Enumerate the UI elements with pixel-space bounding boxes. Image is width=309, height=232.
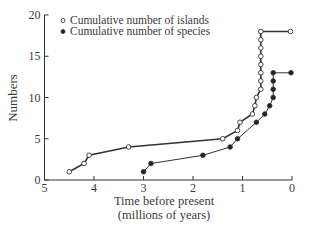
data-point [289, 70, 294, 75]
y-tick-label: 20 [29, 8, 41, 22]
legend-label: Cumulative number of species [70, 25, 211, 38]
plot-area [67, 29, 293, 174]
data-point [126, 145, 131, 150]
data-point [271, 79, 276, 84]
series-line [144, 73, 292, 172]
data-point [220, 136, 225, 141]
legend-marker-filled-circle-icon [61, 30, 65, 34]
x-tick-label: 5 [42, 181, 48, 195]
data-point [235, 136, 240, 141]
x-tick-label: 3 [141, 181, 147, 195]
y-tick-label: 15 [29, 49, 41, 63]
data-point [259, 79, 264, 84]
x-axis-label-line-1: Time before present [114, 194, 215, 208]
data-point [201, 153, 206, 158]
data-point [271, 95, 276, 100]
data-point [259, 70, 264, 75]
series-species [141, 70, 293, 174]
series-islands [67, 29, 293, 174]
data-point [149, 161, 154, 166]
data-point [254, 120, 259, 125]
x-tick-label: 1 [240, 181, 246, 195]
data-point [254, 95, 259, 100]
data-point [228, 145, 233, 150]
data-point [262, 112, 267, 117]
data-point [235, 128, 240, 133]
data-point [259, 29, 264, 34]
data-point [288, 29, 293, 34]
data-point [141, 169, 146, 174]
x-axis-label-line-2: (millions of years) [118, 208, 210, 222]
data-point [259, 87, 264, 92]
y-tick-label: 0 [35, 173, 41, 187]
data-point [271, 87, 276, 92]
data-point [271, 70, 276, 75]
data-point [259, 37, 264, 42]
x-tick-label: 0 [289, 181, 295, 195]
data-point [259, 46, 264, 51]
y-tick-label: 5 [35, 132, 41, 146]
data-point [67, 169, 72, 174]
data-point [87, 153, 92, 158]
data-point [253, 103, 258, 108]
y-tick-label: 10 [29, 91, 41, 105]
data-point [250, 112, 255, 117]
series-line [69, 32, 290, 172]
data-point [259, 62, 264, 67]
legend-marker-open-circle-icon [61, 19, 65, 23]
y-axis-label: Numbers [5, 74, 20, 122]
data-point [267, 103, 272, 108]
legend: Cumulative number of islandsCumulative n… [61, 14, 211, 38]
data-point [82, 161, 87, 166]
x-tick-label: 4 [91, 181, 97, 195]
data-point [259, 54, 264, 59]
data-point [238, 120, 243, 125]
chart: 54321005101520 Cumulative number of isla… [0, 0, 309, 232]
x-tick-label: 2 [190, 181, 196, 195]
